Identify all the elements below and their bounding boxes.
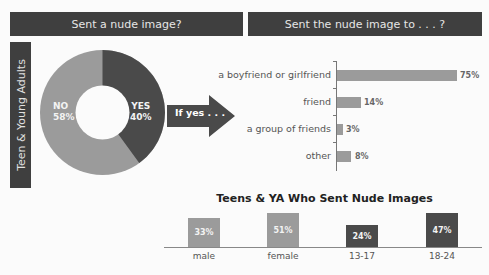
vbar-value: 24% <box>352 232 371 241</box>
hbar <box>337 70 457 81</box>
vbar-baseline <box>164 247 482 248</box>
vbar-value: 33% <box>194 228 213 237</box>
hbar-row: friend 14% <box>0 97 489 109</box>
vbar-label: 13-17 <box>332 251 392 261</box>
hbar <box>337 97 361 108</box>
hbar-value: 75% <box>460 71 479 80</box>
vbar-value: 47% <box>432 226 451 235</box>
header-label: Sent the nude image to . . . ? <box>285 18 445 31</box>
sidebar-teen-young-adults: Teen & Young Adults <box>10 42 31 188</box>
header-sent-nude-image: Sent a nude image? <box>10 12 243 36</box>
axis-tick <box>333 142 337 143</box>
header-label: Sent a nude image? <box>71 18 181 31</box>
vbar-label: male <box>174 251 234 261</box>
vbar-value: 51% <box>273 226 292 235</box>
vbar-female: 51% <box>267 213 299 247</box>
axis-tick <box>333 88 337 89</box>
hbar-label: a boyfriend or girlfriend <box>131 69 331 80</box>
yes-value: 40% <box>130 112 152 123</box>
hbar <box>337 124 343 135</box>
hbar-value: 14% <box>364 98 383 107</box>
hbar-value: 3% <box>346 125 360 134</box>
no-value: 58% <box>53 112 75 123</box>
header-sent-to: Sent the nude image to . . . ? <box>248 12 482 36</box>
hbar-row: a boyfriend or girlfriend 75% <box>0 70 489 82</box>
vbar-13-17: 24% <box>346 225 378 247</box>
hbar-value: 8% <box>355 152 369 161</box>
vbar-label: 18-24 <box>412 251 472 261</box>
vbar-label: female <box>253 251 313 261</box>
hbar-label: friend <box>131 96 331 107</box>
vbar-male: 33% <box>188 218 220 247</box>
vbar-chart-title: Teens & YA Who Sent Nude Images <box>160 192 489 205</box>
axis-tick <box>333 115 337 116</box>
hbar-row: a group of friends 3% <box>0 124 489 136</box>
axis-tick <box>333 61 337 62</box>
vbar-18-24: 47% <box>426 213 458 247</box>
hbar <box>337 151 351 162</box>
hbar-label: other <box>131 150 331 161</box>
hbar-row: other 8% <box>0 151 489 163</box>
hbar-label: a group of friends <box>131 123 331 134</box>
